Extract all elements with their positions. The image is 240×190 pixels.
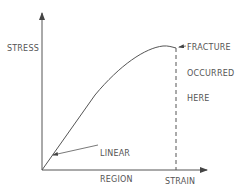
linear-region-line-2: REGION bbox=[100, 176, 133, 185]
linear-region-annotation: LINEAR REGION bbox=[100, 133, 133, 190]
y-axis-label: STRESS bbox=[7, 45, 39, 54]
fracture-pointer-arrow bbox=[179, 46, 186, 47]
stress-strain-diagram: STRESS STRAIN FRACTURE OCCURRED HERE LIN… bbox=[0, 0, 240, 190]
fracture-annotation-line-1: FRACTURE bbox=[187, 44, 234, 53]
linear-region-pointer-arrow bbox=[53, 145, 98, 155]
fracture-annotation: FRACTURE OCCURRED HERE bbox=[187, 27, 234, 121]
fracture-annotation-line-3: HERE bbox=[187, 95, 234, 104]
linear-region-line-1: LINEAR bbox=[100, 150, 133, 159]
fracture-annotation-line-2: OCCURRED bbox=[187, 70, 234, 79]
x-axis-label: STRAIN bbox=[165, 178, 195, 187]
